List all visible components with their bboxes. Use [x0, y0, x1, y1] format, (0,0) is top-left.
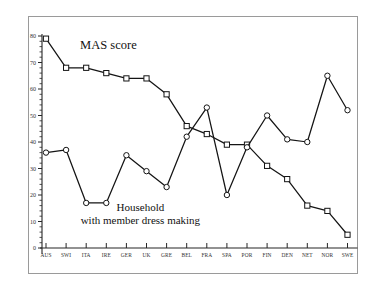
- data-point-marker: [184, 134, 189, 139]
- data-point-marker: [124, 153, 129, 158]
- y-tick-label: 30: [30, 166, 36, 172]
- data-point-marker: [64, 65, 69, 70]
- data-point-marker: [224, 192, 229, 197]
- y-tick-label: 60: [30, 86, 36, 92]
- data-point-marker: [164, 184, 169, 189]
- data-point-marker: [305, 139, 310, 144]
- line-chart: 01020304050607080 AUSSWIITAIREGERUKGREBE…: [0, 0, 375, 291]
- data-point-marker: [325, 208, 330, 213]
- x-tick-label: POR: [242, 252, 253, 258]
- x-tick-label: AUS: [40, 252, 51, 258]
- data-point-marker: [265, 163, 270, 168]
- y-tick-label: 80: [30, 33, 36, 39]
- series-polyline: [46, 39, 348, 235]
- x-tick-label: ITA: [82, 252, 91, 258]
- annotation-layer: MAS scoreHouseholdwith member dress maki…: [80, 38, 201, 226]
- x-tick-label: GER: [121, 252, 132, 258]
- data-point-marker: [345, 108, 350, 113]
- x-tick-label: FRA: [201, 252, 212, 258]
- data-point-marker: [184, 124, 189, 129]
- series-square: [43, 36, 350, 237]
- data-point-marker: [43, 36, 48, 41]
- series-layer: [43, 36, 350, 237]
- data-point-marker: [84, 65, 89, 70]
- x-tick-label: NET: [302, 252, 313, 258]
- series-annotation: MAS score: [80, 38, 137, 52]
- data-point-marker: [285, 177, 290, 182]
- data-point-marker: [63, 147, 68, 152]
- y-tick-label: 50: [30, 113, 36, 119]
- y-tick-label: 70: [30, 60, 36, 66]
- x-tick-label: DEN: [282, 252, 293, 258]
- series-polyline: [46, 76, 348, 203]
- x-tick-label: BEL: [181, 252, 191, 258]
- data-point-marker: [285, 137, 290, 142]
- data-point-marker: [264, 113, 269, 118]
- x-tick-label: UK: [143, 252, 151, 258]
- data-point-marker: [43, 150, 48, 155]
- x-tick-label: SPA: [222, 252, 232, 258]
- series-annotation: with member dress making: [81, 214, 201, 226]
- y-tick-label: 20: [30, 192, 36, 198]
- data-point-marker: [204, 131, 209, 136]
- x-tick-label: SWI: [61, 252, 71, 258]
- y-tick-label: 0: [33, 245, 36, 251]
- data-point-marker: [224, 142, 229, 147]
- x-tick-label: GRE: [161, 252, 173, 258]
- series-annotation: Household: [117, 201, 165, 213]
- y-tick-label: 10: [30, 219, 36, 225]
- y-tick-label: 40: [30, 139, 36, 145]
- x-tick-label: FIN: [263, 252, 272, 258]
- y-axis: 01020304050607080: [30, 33, 42, 254]
- data-point-marker: [104, 200, 109, 205]
- data-point-marker: [325, 73, 330, 78]
- data-point-marker: [305, 203, 310, 208]
- data-point-marker: [144, 168, 149, 173]
- data-point-marker: [84, 200, 89, 205]
- x-tick-label: IRE: [102, 252, 112, 258]
- chart-figure: 01020304050607080 AUSSWIITAIREGERUKGREBE…: [0, 0, 375, 291]
- data-point-marker: [204, 105, 209, 110]
- data-point-marker: [244, 145, 249, 150]
- series-circle: [43, 73, 350, 206]
- data-point-marker: [124, 76, 129, 81]
- data-point-marker: [104, 71, 109, 76]
- data-point-marker: [144, 76, 149, 81]
- data-point-marker: [164, 92, 169, 97]
- x-tick-label: NOR: [322, 252, 334, 258]
- data-point-marker: [345, 232, 350, 237]
- x-axis: AUSSWIITAIREGERUKGREBELFRASPAPORFINDENNE…: [40, 243, 358, 258]
- x-tick-label: SWE: [342, 252, 354, 258]
